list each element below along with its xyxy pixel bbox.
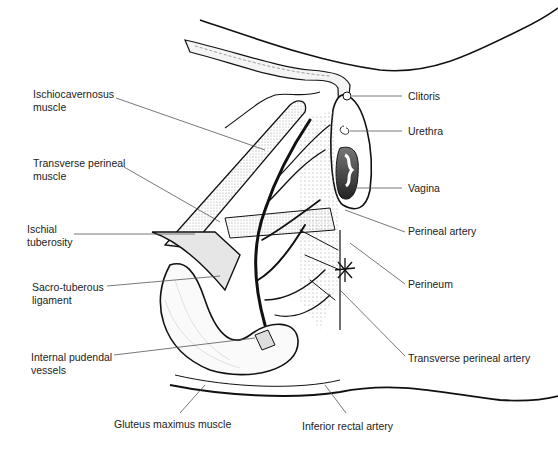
label-sacro-tuberous-ligament: Sacro-tuberous ligament [32,281,104,307]
leader-transverse-perineal-muscle [124,167,220,222]
label-clitoris: Clitoris [408,90,440,103]
leader-perineal-artery [345,210,405,232]
label-ischial-tuberosity: Ischial tuberosity [27,223,73,249]
label-line: tuberosity [27,236,73,249]
label-line: Ischiocavernosus [33,88,114,101]
label-line: Transverse perineal [33,157,125,170]
leader-inferior-rectal [325,385,346,413]
clitoris-shape [343,92,351,100]
skin-outline-right [520,8,558,30]
skin-outline-bottom [170,385,558,401]
label-line: Sacro-tuberous [32,281,104,294]
label-line: vessels [31,364,112,377]
label-line: muscle [33,170,125,183]
label-ischiocavernosus-muscle: Ischiocavernosus muscle [33,88,114,114]
label-vagina: Vagina [408,182,440,195]
label-transverse-perineal-muscle: Transverse perineal muscle [33,157,125,183]
label-perineum: Perineum [408,278,453,291]
leader-transverse-perineal-artery [340,290,405,356]
label-urethra: Urethra [408,125,443,138]
label-gluteus-maximus-muscle: Gluteus maximus muscle [114,418,231,431]
label-inferior-rectal-artery: Inferior rectal artery [302,420,393,433]
label-transverse-perineal-artery: Transverse perineal artery [408,352,530,365]
leader-ischiocavernosus [116,98,265,150]
anatomy-diagram: Ischiocavernosus muscle Transverse perin… [0,0,558,453]
label-line: muscle [33,101,114,114]
label-internal-pudendal-vessels: Internal pudendal vessels [31,351,112,377]
label-line: Ischial [27,223,73,236]
label-line: Internal pudendal [31,351,112,364]
label-line: ligament [32,294,104,307]
fat-layer [175,375,340,386]
label-perineal-artery: Perineal artery [408,225,476,238]
leader-perineum [350,243,405,284]
